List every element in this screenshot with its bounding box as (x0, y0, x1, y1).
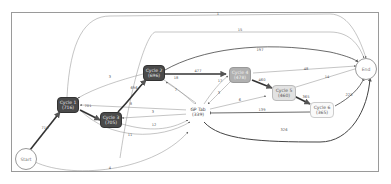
node-cycle2-count: (696) (148, 73, 160, 78)
edge-label: 197 (257, 48, 264, 52)
edge-label: 365 (303, 95, 310, 99)
edge-label: 326 (281, 128, 288, 132)
edge-label: 6 (239, 98, 241, 102)
edge-label: 225 (346, 93, 353, 97)
edge-label: 696 (131, 86, 138, 90)
edge-label: 1 (217, 12, 219, 16)
edge-label: 3 (109, 75, 111, 79)
node-end-label: End (362, 67, 371, 72)
edge-label: 460 (259, 78, 266, 82)
edge-label: 18 (174, 76, 179, 80)
node-cycle3-count: (705) (105, 120, 117, 125)
edge-label: 701 (85, 104, 92, 108)
node-cycle6-count: (365) (316, 110, 328, 115)
edge-label: 8 (130, 102, 132, 106)
node-cycle1-count: (716) (62, 105, 74, 110)
node-cycle3[interactable]: Cycle 3 (705) (100, 112, 122, 128)
node-gptab-count: (339) (192, 112, 204, 117)
edge-label: 12 (152, 123, 157, 127)
node-start[interactable]: Start (15, 148, 37, 170)
node-cycle6[interactable]: Cycle 6 (365) (310, 102, 334, 118)
edge-label: 477 (195, 69, 202, 73)
node-end[interactable]: End (355, 58, 377, 80)
edge-label: 14 (325, 75, 330, 79)
edge-label: 48 (304, 67, 309, 71)
edge-label: 4 (109, 166, 111, 170)
node-cycle4-count: (478) (234, 75, 246, 80)
edge-label: 7 (175, 88, 177, 92)
node-cycle5-count: (460) (278, 93, 290, 98)
edge-label: 3 (152, 110, 154, 114)
edge-label: 17 (218, 79, 223, 83)
node-cycle2[interactable]: Cycle 2 (696) (143, 65, 165, 81)
node-cycle1[interactable]: Cycle 1 (716) (57, 97, 79, 113)
node-start-label: Start (21, 157, 32, 162)
node-gptab[interactable]: GP Tab (339) (186, 104, 210, 120)
edge-label: 11 (128, 133, 133, 137)
edges-layer (0, 0, 391, 184)
node-cycle5[interactable]: Cycle 5 (460) (272, 85, 296, 101)
edge-label: 139 (259, 108, 266, 112)
edge-label: 15 (238, 28, 243, 32)
edge-label: 716 (42, 126, 49, 130)
edge-label: 3 (218, 91, 220, 95)
node-cycle4[interactable]: Cycle 4 (478) (229, 67, 251, 83)
